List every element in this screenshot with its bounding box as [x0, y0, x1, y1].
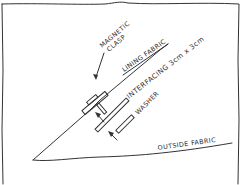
washer-piece [116, 115, 134, 133]
arrow-to-washer [108, 131, 117, 140]
magnetic-clasp [80, 89, 116, 124]
arrow-to-clasp [93, 53, 104, 80]
arrow-to-interfacing [95, 112, 104, 122]
sewing-diagram: MAGNETIC CLASP LINING FABRIC INTERFACING… [0, 0, 244, 185]
